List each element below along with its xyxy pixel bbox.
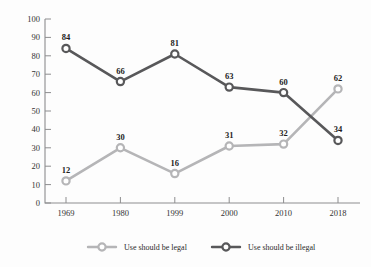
data-point-label: 63	[225, 71, 234, 81]
data-point-marker	[117, 144, 124, 151]
x-tick-label: 1980	[112, 208, 129, 218]
y-tick-label: 80	[32, 51, 41, 61]
series-lines	[66, 48, 338, 181]
y-tick-label: 40	[32, 124, 41, 134]
data-point-marker	[226, 142, 233, 149]
y-tick-label: 60	[32, 88, 41, 98]
y-tick-label: 100	[27, 14, 40, 24]
axis-frame	[45, 19, 360, 203]
legend-label: Use should be illegal	[248, 243, 316, 252]
y-axis-ticks	[45, 19, 51, 203]
data-point-marker	[117, 78, 124, 85]
y-tick-label: 20	[32, 161, 41, 171]
series-markers	[62, 45, 341, 185]
x-tick-label: 2010	[275, 208, 292, 218]
data-point-marker	[62, 177, 69, 184]
legend-item[interactable]: Use should be legal	[88, 243, 188, 252]
legend-label: Use should be legal	[124, 243, 188, 252]
series-line	[66, 48, 338, 140]
chart-legend: Use should be legalUse should be illegal	[88, 243, 316, 252]
data-point-label: 30	[116, 132, 125, 142]
x-tick-label: 2000	[221, 208, 238, 218]
y-tick-label: 10	[32, 180, 41, 190]
data-point-label: 32	[279, 128, 288, 138]
data-point-marker	[280, 141, 287, 148]
y-tick-label: 0	[36, 198, 40, 208]
legend-marker-icon	[222, 243, 229, 250]
data-point-label: 84	[62, 32, 71, 42]
y-axis-tick-labels: 0102030405060708090100	[27, 14, 40, 208]
data-point-label: 60	[279, 77, 288, 87]
y-tick-label: 90	[32, 32, 41, 42]
data-point-label: 81	[171, 38, 180, 48]
chart-canvas: 0102030405060708090100 19691980199920002…	[0, 0, 371, 267]
data-point-label: 34	[334, 124, 343, 134]
y-tick-label: 70	[32, 69, 41, 79]
data-point-marker	[226, 83, 233, 90]
x-tick-label: 1969	[58, 208, 75, 218]
series-data-labels: 123016313262846681636034	[62, 32, 343, 174]
data-point-marker	[280, 89, 287, 96]
y-tick-label: 30	[32, 143, 41, 153]
x-tick-label: 2018	[330, 208, 347, 218]
data-point-label: 31	[225, 130, 234, 140]
data-point-label: 16	[171, 158, 180, 168]
data-point-marker	[334, 137, 341, 144]
x-axis-ticks	[66, 197, 338, 203]
x-axis-tick-labels: 196919801999200020102018	[58, 208, 347, 218]
line-chart: 0102030405060708090100 19691980199920002…	[0, 0, 371, 267]
data-point-marker	[62, 45, 69, 52]
legend-item[interactable]: Use should be illegal	[212, 243, 316, 252]
data-point-marker	[171, 170, 178, 177]
y-tick-label: 50	[32, 106, 41, 116]
series-line	[66, 89, 338, 181]
x-tick-label: 1999	[166, 208, 183, 218]
legend-marker-icon	[98, 243, 105, 250]
data-point-label: 66	[116, 66, 125, 76]
data-point-label: 62	[334, 73, 343, 83]
data-point-marker	[334, 85, 341, 92]
data-point-label: 12	[62, 165, 71, 175]
data-point-marker	[171, 50, 178, 57]
